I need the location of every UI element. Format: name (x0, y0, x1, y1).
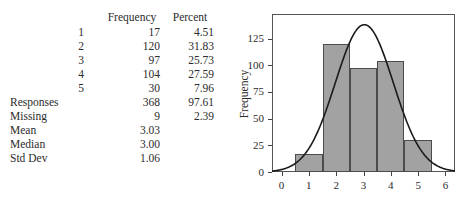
x-tick-mark (445, 172, 446, 176)
x-tick-label: 3 (354, 180, 374, 191)
x-tick-label: 6 (435, 180, 455, 191)
row-index: 4 (60, 67, 84, 81)
x-tick-label: 0 (272, 180, 292, 191)
x-tick-mark (282, 172, 283, 176)
x-tick-label: 1 (299, 180, 319, 191)
row-frequency: 17 (104, 25, 160, 39)
table-row: 1 17 4.51 (0, 25, 225, 39)
x-tick-label: 4 (381, 180, 401, 191)
row-index: 5 (60, 81, 84, 95)
table-row: 2 120 31.83 (0, 39, 225, 53)
x-tick-mark (391, 172, 392, 176)
table-row-missing: Missing 9 2.39 (0, 109, 225, 123)
y-tick-mark (268, 172, 272, 173)
row-percent: 25.73 (166, 53, 214, 67)
row-frequency: 104 (104, 67, 160, 81)
row-percent: 27.59 (166, 67, 214, 81)
row-index: 1 (60, 25, 84, 39)
table-header-row: Frequency Percent (0, 10, 225, 24)
table-header-frequency: Frequency (104, 10, 160, 24)
statistics-figure: Frequency Percent 1 17 4.51 2 120 31.83 … (0, 0, 470, 200)
row-percent: 4.51 (166, 25, 214, 39)
x-tick-label: 5 (408, 180, 428, 191)
row-frequency: 9 (104, 109, 160, 123)
normal-curve-overlay (272, 14, 455, 172)
y-tick-label: 50 (228, 113, 264, 124)
table-row-mean: Mean 3.03 (0, 123, 225, 137)
row-frequency: 3.03 (104, 123, 160, 137)
row-percent: 2.39 (166, 109, 214, 123)
table-row-std-dev: Std Dev 1.06 (0, 151, 225, 165)
row-percent: 31.83 (166, 39, 214, 53)
row-label: Median (10, 137, 45, 151)
row-index: 2 (60, 39, 84, 53)
row-label: Mean (10, 123, 36, 137)
x-tick-label: 2 (326, 180, 346, 191)
y-tick-label: 0 (228, 167, 264, 178)
y-tick-label: 75 (228, 86, 264, 97)
row-percent: 97.61 (166, 95, 214, 109)
row-frequency: 1.06 (104, 151, 160, 165)
row-frequency: 97 (104, 53, 160, 67)
x-tick-mark (364, 172, 365, 176)
y-tick-label: 25 (228, 140, 264, 151)
table-header-percent: Percent (166, 10, 214, 24)
x-tick-mark (418, 172, 419, 176)
row-label: Responses (10, 95, 59, 109)
table-row: 3 97 25.73 (0, 53, 225, 67)
row-frequency: 3.00 (104, 137, 160, 151)
table-row: 5 30 7.96 (0, 81, 225, 95)
y-tick-label: 100 (228, 60, 264, 71)
x-tick-mark (336, 172, 337, 176)
row-frequency: 120 (104, 39, 160, 53)
table-row-median: Median 3.00 (0, 137, 225, 151)
normal-curve-path (272, 14, 455, 172)
row-index: 3 (60, 53, 84, 67)
row-label: Std Dev (10, 151, 47, 165)
y-tick-label: 125 (228, 33, 264, 44)
row-percent: 7.96 (166, 81, 214, 95)
frequency-table: Frequency Percent 1 17 4.51 2 120 31.83 … (0, 0, 225, 200)
table-row-responses: Responses 368 97.61 (0, 95, 225, 109)
row-label: Missing (10, 109, 47, 123)
row-frequency: 30 (104, 81, 160, 95)
row-frequency: 368 (104, 95, 160, 109)
x-tick-mark (309, 172, 310, 176)
histogram-chart: Frequency 0255075100125 0123456 (225, 0, 470, 200)
table-row: 4 104 27.59 (0, 67, 225, 81)
